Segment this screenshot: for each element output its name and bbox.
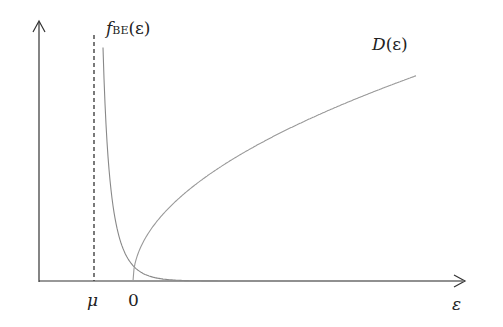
d-symbol: D	[372, 34, 386, 54]
density-of-states-curve	[133, 76, 416, 281]
f-be-label: fBE(ε)	[106, 18, 151, 38]
f-be-curve	[103, 48, 464, 282]
zero-tick-label: 0	[128, 290, 139, 310]
x-axis-label: ε	[452, 294, 461, 314]
d-label: D(ε)	[372, 34, 408, 54]
mu-tick-label: μ	[87, 290, 98, 310]
diagram-canvas	[0, 0, 503, 327]
d-argument: (ε)	[386, 34, 408, 54]
f-argument: (ε)	[128, 18, 150, 38]
f-subscript: BE	[112, 24, 128, 37]
